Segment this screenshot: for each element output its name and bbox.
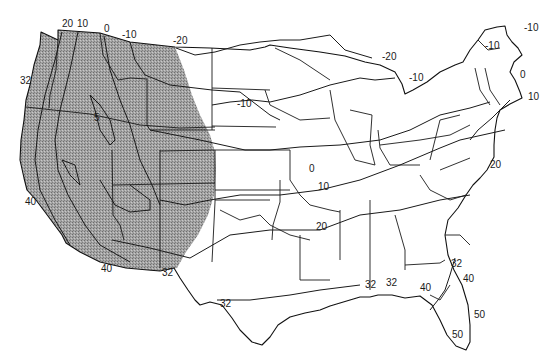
contour-label: 32	[162, 267, 174, 278]
contour-label: 32	[451, 258, 463, 269]
contour-label: 40	[463, 273, 475, 284]
contour-label: 40	[25, 196, 37, 207]
contour-label: -20	[382, 51, 397, 62]
contour-label: -20	[173, 35, 188, 46]
contour-label: 0	[309, 163, 315, 174]
contour-label: 40	[101, 263, 113, 274]
contour-label: -10	[122, 29, 137, 40]
contour-label: 50	[452, 329, 464, 340]
contour-label: 32	[365, 279, 377, 290]
contour-label: 10	[77, 18, 89, 29]
contour-label: 32	[220, 298, 232, 309]
contour-label: -10	[237, 98, 252, 109]
contour-label: 32	[20, 75, 32, 86]
contour-label: 10	[528, 91, 540, 102]
contour-label: 50	[474, 309, 486, 320]
isotherm-map: 20 10 0 -10 -20 32 5 -10 -20 -10 -10 -10…	[0, 0, 557, 361]
contour-label: 40	[420, 282, 432, 293]
contour-label: 0	[520, 69, 526, 80]
contour-label: 20	[316, 221, 328, 232]
contour-label: 5	[94, 112, 100, 123]
contour-label: 0	[104, 23, 110, 34]
contour-label: -10	[485, 40, 500, 51]
contour-label: -10	[524, 22, 539, 33]
contour-label: -10	[409, 72, 424, 83]
contour-label: 20	[62, 18, 74, 29]
contour-label: 20	[490, 159, 502, 170]
contour-label: 10	[318, 181, 330, 192]
contour-label: 32	[386, 277, 398, 288]
